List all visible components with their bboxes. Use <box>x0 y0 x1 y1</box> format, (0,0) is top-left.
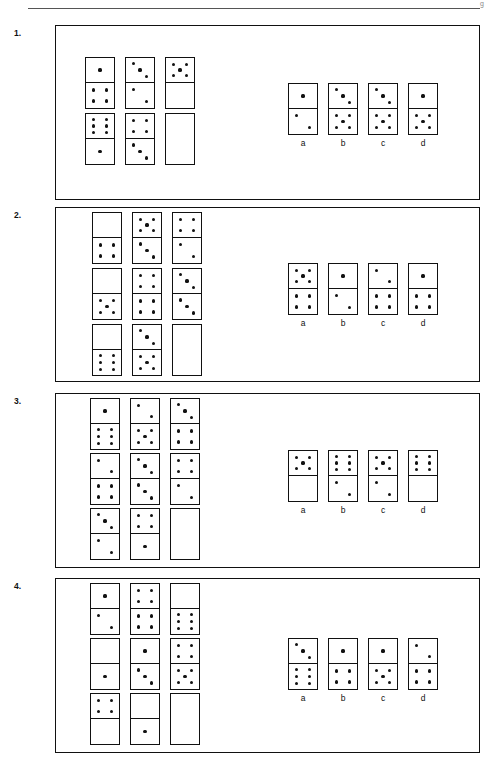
domino-pip <box>375 681 378 684</box>
domino-pip <box>192 286 195 289</box>
matrix-cell <box>165 113 195 165</box>
matrix-cell <box>90 638 120 690</box>
option-domino-a <box>288 450 318 502</box>
domino-pip <box>183 409 186 412</box>
domino-pip <box>150 625 153 628</box>
matrix-cell <box>172 324 202 376</box>
domino-half-top <box>133 269 161 294</box>
domino-half-top <box>369 451 397 476</box>
domino-pip <box>150 441 153 444</box>
matrix-cell <box>130 398 160 450</box>
matrix-domino-r3-c2 <box>132 324 162 376</box>
option-b[interactable]: b <box>328 638 358 703</box>
option-c[interactable]: c <box>368 450 398 515</box>
domino-pip <box>388 101 391 104</box>
domino-pip <box>335 294 338 297</box>
domino-pip <box>421 94 424 97</box>
domino-half-bottom <box>171 479 199 504</box>
matrix-cell <box>90 693 120 745</box>
domino-half-top <box>131 454 159 479</box>
domino-matrix <box>90 398 200 560</box>
option-domino-b <box>328 83 358 135</box>
domino-pip <box>177 644 180 647</box>
domino-answer-slot[interactable] <box>170 508 200 560</box>
domino-half-bottom <box>126 139 154 164</box>
option-c[interactable]: c <box>368 638 398 703</box>
domino-half-bottom <box>91 609 119 634</box>
domino-half-top <box>369 264 397 289</box>
domino-answer-slot[interactable] <box>165 113 195 165</box>
domino-pip <box>143 675 146 678</box>
matrix-domino-r1-c1 <box>90 398 120 450</box>
domino-pip <box>137 614 140 617</box>
domino-pip <box>415 669 418 672</box>
question-number: 4. <box>14 581 21 591</box>
header-mark: g <box>480 0 484 7</box>
domino-pip <box>428 126 431 129</box>
domino-pip <box>308 668 311 671</box>
option-d[interactable]: d <box>408 638 438 703</box>
domino-pip <box>110 495 113 498</box>
domino-pip <box>105 99 108 102</box>
matrix-cell <box>85 113 115 165</box>
option-a[interactable]: a <box>288 83 318 148</box>
domino-half-bottom <box>91 664 119 689</box>
domino-pip <box>192 311 195 314</box>
option-a[interactable]: a <box>288 450 318 515</box>
domino-pip <box>97 699 100 702</box>
domino-answer-slot[interactable] <box>170 693 200 745</box>
domino-pip <box>190 496 193 499</box>
option-b[interactable]: b <box>328 450 358 515</box>
option-b[interactable]: b <box>328 263 358 328</box>
domino-pip <box>152 285 155 288</box>
domino-pip <box>138 150 141 153</box>
option-a[interactable]: a <box>288 638 318 703</box>
domino-pip <box>98 150 101 153</box>
domino-pip <box>103 675 106 678</box>
matrix-cell <box>170 398 200 450</box>
option-label: a <box>301 138 306 148</box>
domino-pip <box>137 668 140 671</box>
domino-pip <box>348 493 351 496</box>
domino-half-bottom <box>173 294 201 319</box>
matrix-domino-r3-c1 <box>92 324 122 376</box>
domino-half-bottom <box>289 109 317 134</box>
domino-pip <box>139 329 142 332</box>
domino-pip <box>97 495 100 498</box>
domino-half-top <box>91 639 119 664</box>
domino-answer-slot[interactable] <box>172 324 202 376</box>
domino-pip <box>177 627 180 630</box>
domino-pip <box>137 525 140 528</box>
domino-pip <box>308 456 311 459</box>
matrix-domino-r1-c2 <box>130 583 160 635</box>
domino-pip <box>348 455 351 458</box>
matrix-domino-r1-c3 <box>165 57 195 109</box>
domino-pip <box>348 306 351 309</box>
option-d[interactable]: d <box>408 83 438 148</box>
option-c[interactable]: c <box>368 263 398 328</box>
matrix-cell <box>170 693 200 745</box>
domino-half-top <box>93 213 121 238</box>
domino-pip <box>152 310 155 313</box>
domino-pip <box>335 88 338 91</box>
domino-pip <box>381 94 384 97</box>
domino-pip <box>97 442 100 445</box>
domino-pip <box>92 124 95 127</box>
option-d[interactable]: d <box>408 450 438 515</box>
domino-half-bottom <box>369 109 397 134</box>
matrix-cell <box>90 508 120 560</box>
domino-half-bottom <box>91 424 119 449</box>
domino-half-bottom <box>133 350 161 375</box>
option-c[interactable]: c <box>368 83 398 148</box>
domino-pip <box>295 294 298 297</box>
domino-pip <box>295 682 298 685</box>
domino-pip <box>388 114 391 117</box>
domino-half-top <box>131 509 159 534</box>
domino-pip <box>190 613 193 616</box>
domino-pip <box>348 669 351 672</box>
domino-pip <box>110 626 113 629</box>
option-b[interactable]: b <box>328 83 358 148</box>
option-label: c <box>381 693 385 703</box>
option-a[interactable]: a <box>288 263 318 328</box>
option-d[interactable]: d <box>408 263 438 328</box>
